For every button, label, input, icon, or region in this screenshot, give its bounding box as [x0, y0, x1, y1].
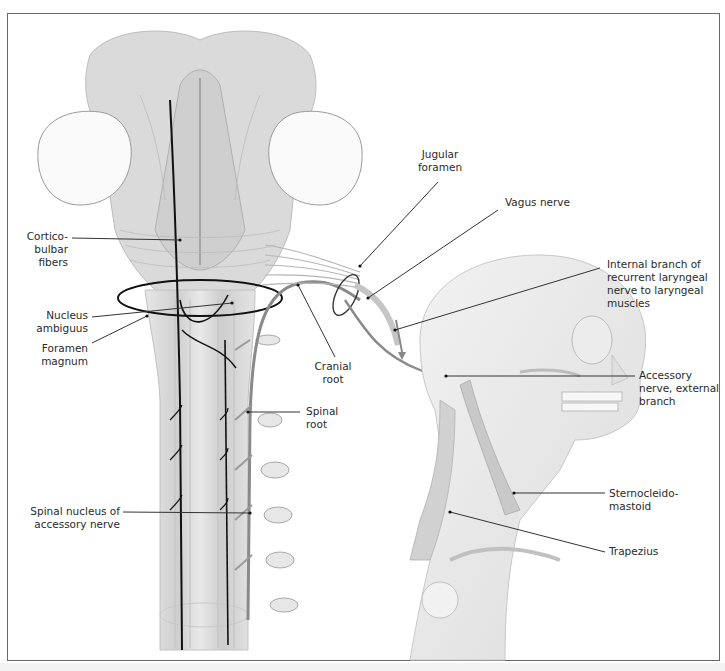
- label-jugular-foramen: Jugular foramen: [410, 148, 470, 174]
- bottom-strip: [0, 663, 725, 671]
- spinal-root-nerve: [248, 282, 360, 620]
- label-trapezius: Trapezius: [609, 545, 658, 558]
- vagus-nerve-path: [355, 285, 398, 345]
- label-spinal-nucleus-accessory: Spinal nucleus of accessory nerve: [18, 505, 120, 531]
- label-foramen-magnum: Foramen magnum: [18, 342, 88, 368]
- label-sternocleidomastoid: Sternocleido- mastoid: [609, 487, 679, 513]
- label-accessory-nerve-external: Accessory nerve, external branch: [639, 369, 721, 408]
- anatomy-illustration: [0, 0, 725, 671]
- root-ganglia: [256, 335, 298, 612]
- spinal-cord: [145, 290, 255, 650]
- label-corticobulbar-fibers: Cortico- bulbar fibers: [18, 230, 68, 269]
- label-spinal-root: Spinal root: [306, 405, 338, 431]
- label-vagus-nerve: Vagus nerve: [505, 196, 570, 209]
- brainstem: [38, 31, 362, 300]
- label-nucleus-ambiguus: Nucleus ambiguus: [18, 309, 88, 335]
- label-internal-branch: Internal branch of recurrent laryngeal n…: [607, 258, 722, 310]
- label-cranial-root: Cranial root: [308, 360, 358, 386]
- head-and-neck: [410, 255, 646, 660]
